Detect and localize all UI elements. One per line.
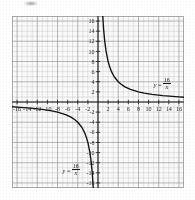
tick-label-y: -8 <box>90 140 95 146</box>
tick-label-x: 10 <box>146 106 152 112</box>
equation-label-lower-branch: y =16x <box>63 163 80 176</box>
fraction-denominator-upper: x <box>163 83 171 90</box>
tick-label-x: 12 <box>156 106 162 112</box>
tick-label-y: 12 <box>89 38 95 44</box>
tick-label-x: 4 <box>117 106 120 112</box>
figure-container: xy-16-14-12-10-8-6-4-2246810121416161412… <box>0 0 195 200</box>
fraction-numerator-lower: 16 <box>72 163 80 169</box>
tick-label-x: -6 <box>65 106 70 112</box>
tick-label-y: 10 <box>89 49 95 55</box>
cartesian-graph: xy-16-14-12-10-8-6-4-2246810121416161412… <box>12 16 184 188</box>
tick-label-y: -4 <box>90 119 95 125</box>
equation-lhs-upper: y = <box>154 82 162 88</box>
tick-label-x: 6 <box>127 106 130 112</box>
tick-label-y: 16 <box>89 18 95 24</box>
plot-area: xy-16-14-12-10-8-6-4-2246810121416161412… <box>12 16 184 188</box>
tick-label-x: 14 <box>166 106 172 112</box>
tick-label-y: 8 <box>92 59 95 65</box>
tick-label-x: -8 <box>55 106 60 112</box>
tick-label-x: 16 <box>176 106 182 112</box>
fraction-upper: 16x <box>163 77 171 90</box>
tick-label-x: 8 <box>137 106 140 112</box>
tick-label-y: -2 <box>90 109 95 115</box>
tick-label-y: -14 <box>86 170 94 176</box>
tick-label-y: 14 <box>89 28 95 34</box>
tick-label-y: 6 <box>92 69 95 75</box>
equation-lhs-lower: y = <box>63 168 71 174</box>
fraction-denominator-lower: x <box>72 169 80 176</box>
tick-label-y: 4 <box>92 79 95 85</box>
scan-artifact <box>24 1 38 6</box>
tick-label-y: -6 <box>90 129 95 135</box>
fraction-numerator-upper: 16 <box>163 77 171 83</box>
tick-label-x: -4 <box>75 106 80 112</box>
fraction-lower: 16x <box>72 163 80 176</box>
equation-label-upper-branch: y =16x <box>154 77 171 90</box>
tick-label-x: 2 <box>107 106 110 112</box>
tick-label-y: 2 <box>92 89 95 95</box>
